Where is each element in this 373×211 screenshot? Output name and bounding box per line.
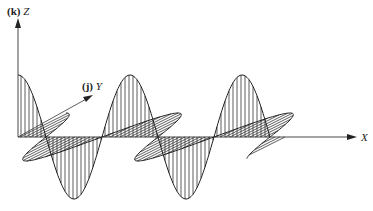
x-axis-name: X [361, 131, 368, 143]
z-axis-label: (k) Z [7, 5, 29, 17]
z-axis-name: Z [23, 5, 29, 17]
x-axis-label: X [361, 131, 368, 143]
wave-drawing [0, 0, 373, 211]
z-axis-arrowhead-icon [15, 18, 21, 28]
em-wave-diagram: (k) Z (j) Y X [0, 0, 373, 211]
x-axis-arrowhead-icon [347, 134, 357, 140]
y-axis-label: (j) Y [82, 80, 102, 92]
z-unit-vector: (k) [7, 5, 20, 17]
y-axis-arrowhead-icon [83, 95, 93, 102]
y-axis-name: Y [96, 80, 102, 92]
y-unit-vector: (j) [82, 80, 93, 92]
